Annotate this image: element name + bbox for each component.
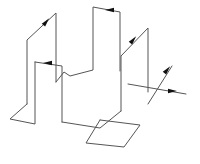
base-route-line	[62, 111, 121, 128]
left-tall-front-line	[27, 13, 56, 104]
right-frame-line	[121, 28, 148, 111]
arrow-inner-step-icon	[43, 61, 52, 65]
right-diagonal-line	[148, 66, 172, 104]
wire-path-diagram	[0, 0, 200, 164]
arrow-top-icon	[105, 8, 114, 12]
wire-segments	[10, 7, 186, 147]
center-zigzag-line	[56, 7, 120, 82]
left-foot-line	[10, 62, 35, 124]
bottom-square-line	[86, 120, 140, 147]
inner-step-line	[35, 62, 62, 122]
